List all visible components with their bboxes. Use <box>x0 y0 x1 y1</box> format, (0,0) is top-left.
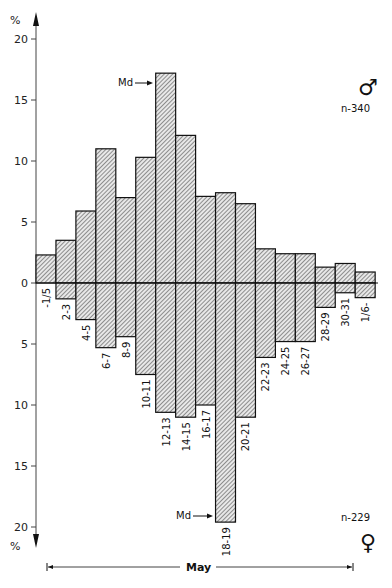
male-bar <box>136 157 156 283</box>
female-sample-size: n-229 <box>341 512 370 523</box>
category-label: 18-19 <box>221 527 232 556</box>
arrow-left-icon <box>48 565 53 569</box>
female-bar <box>355 283 375 298</box>
month-bracket: May <box>47 561 353 574</box>
y-tick-label: 5 <box>21 216 28 229</box>
female-bar <box>236 283 256 417</box>
female-bar <box>96 283 116 348</box>
male-bar <box>355 272 375 283</box>
female-bar <box>196 283 216 405</box>
y-ticks: 051015205101520 <box>14 33 36 534</box>
y-tick-label: 10 <box>14 155 28 168</box>
male-bar <box>76 211 96 283</box>
male-bar <box>96 149 116 283</box>
male-bar <box>176 135 196 283</box>
male-bar <box>216 193 236 283</box>
male-md-label: Md <box>118 77 133 88</box>
male-median-annotation: Md <box>118 77 153 88</box>
arrow-right-icon <box>147 81 153 86</box>
y-tick-label: 15 <box>14 94 28 107</box>
axis-arrow-up-icon <box>33 12 39 26</box>
female-md-label: Md <box>176 510 191 521</box>
female-bar <box>275 283 295 342</box>
male-bar <box>335 263 355 283</box>
category-label: 8-9 <box>121 342 132 358</box>
y-tick-label: 20 <box>14 521 28 534</box>
y-tick-label: 20 <box>14 33 28 46</box>
arrow-right-icon <box>207 514 213 519</box>
y-tick-label: 10 <box>14 399 28 412</box>
category-label: 14-15 <box>181 422 192 451</box>
male-bar <box>156 73 176 283</box>
category-label: 10-11 <box>141 380 152 409</box>
category-label: 2-3 <box>61 304 72 320</box>
male-bar <box>315 267 335 283</box>
category-label: -1/5 <box>41 288 52 308</box>
y-unit-top: % <box>10 14 20 27</box>
male-bar <box>56 240 76 283</box>
female-bar <box>335 283 355 293</box>
category-label: 6-7 <box>101 353 112 369</box>
male-bar <box>275 254 295 283</box>
female-bar <box>216 283 236 522</box>
male-bar <box>116 198 136 283</box>
y-tick-label: 0 <box>21 277 28 290</box>
histogram-chart: % % 051015205101520 -1/52-34-56-78-910-1… <box>0 0 392 588</box>
category-label: 22-23 <box>260 362 271 391</box>
category-label: 28-29 <box>320 312 331 341</box>
female-symbol-icon: ♀ <box>360 530 376 555</box>
female-bar <box>255 283 275 357</box>
male-symbol-icon: ♂ <box>358 75 378 100</box>
category-label: 24-25 <box>280 347 291 376</box>
y-tick-label: 5 <box>21 338 28 351</box>
male-bar <box>36 255 56 283</box>
female-bar <box>176 283 196 417</box>
arrow-right-icon <box>347 565 352 569</box>
male-bar <box>196 196 216 283</box>
female-bar <box>56 283 76 299</box>
female-bar <box>116 283 136 337</box>
y-unit-bottom: % <box>10 540 20 553</box>
y-axis: % % 051015205101520 <box>10 12 39 553</box>
male-bar <box>295 254 315 283</box>
axis-arrow-down-icon <box>33 534 39 548</box>
female-bar <box>295 283 315 342</box>
category-label: 20-21 <box>240 422 251 451</box>
male-sample-size: n-340 <box>341 103 370 114</box>
category-label: 1/6- <box>360 302 371 322</box>
category-label: 16-17 <box>201 410 212 439</box>
female-bar <box>136 283 156 375</box>
category-label: 12-13 <box>161 417 172 446</box>
female-bar <box>315 283 335 307</box>
female-bar <box>156 283 176 412</box>
bars <box>36 73 375 522</box>
male-bar <box>255 249 275 283</box>
female-bar <box>76 283 96 320</box>
y-tick-label: 15 <box>14 460 28 473</box>
male-bar <box>236 204 256 283</box>
category-label: 30-31 <box>340 298 351 327</box>
category-label: 26-27 <box>300 347 311 376</box>
category-label: 4-5 <box>81 325 92 341</box>
female-median-annotation: Md <box>176 510 213 521</box>
month-label: May <box>186 561 211 574</box>
